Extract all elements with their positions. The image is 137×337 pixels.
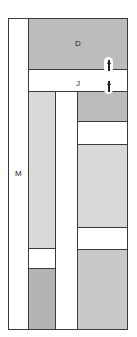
label-left-column-m: M	[15, 170, 22, 178]
region-right-band-1	[77, 91, 128, 122]
capsule-marker-lower	[104, 78, 113, 94]
region-mid-column-lower	[28, 268, 56, 330]
region-left-column-m: M	[8, 18, 29, 330]
top-tick-marker	[20, 10, 42, 15]
arrow-up-icon	[108, 60, 110, 71]
region-gap-column	[55, 91, 78, 330]
diagram-canvas: M D J	[0, 0, 137, 337]
region-mid-band-j: J	[28, 69, 128, 92]
label-mid-band-j: J	[76, 80, 80, 88]
region-right-band-4	[77, 227, 128, 250]
region-right-band-3	[77, 144, 128, 228]
region-right-band-5	[77, 249, 128, 330]
region-mid-column-white	[28, 248, 56, 269]
region-top-d: D	[28, 18, 128, 70]
label-top-region-d: D	[75, 40, 81, 48]
arrow-up-icon	[108, 81, 110, 92]
capsule-marker-upper	[104, 57, 113, 73]
region-right-band-2	[77, 121, 128, 145]
region-mid-column-upper	[28, 91, 56, 249]
